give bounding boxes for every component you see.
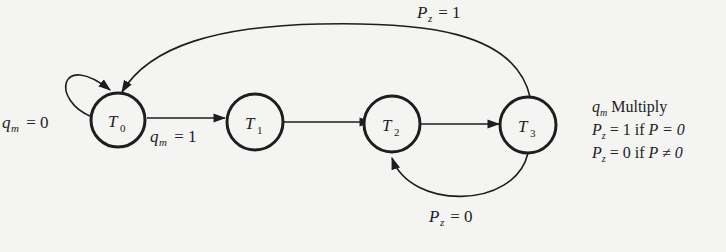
svg-text:= 0: = 0 bbox=[22, 113, 49, 132]
node-label: T bbox=[108, 112, 119, 131]
state-node-T2: T 2 bbox=[364, 96, 420, 152]
state-node-T1: T 1 bbox=[227, 94, 283, 150]
edge-label-qm-1: q m = 1 bbox=[150, 127, 197, 148]
svg-text:m: m bbox=[11, 122, 19, 134]
svg-text:q: q bbox=[2, 113, 11, 132]
node-label: T bbox=[382, 116, 393, 135]
svg-text:P: P bbox=[416, 3, 427, 22]
edge-T3-T2 bbox=[392, 153, 528, 196]
legend-line-pz0: Pz = 0 if P ≠ 0 bbox=[592, 144, 685, 167]
legend: qm Multiply Pz = 1 if P = 0 Pz = 0 if P … bbox=[592, 98, 685, 168]
svg-text:= 1: = 1 bbox=[170, 127, 197, 146]
svg-text:z: z bbox=[439, 216, 445, 228]
edge-T3-T0 bbox=[122, 24, 530, 97]
node-label: T bbox=[245, 114, 256, 133]
edge-label-pz-1: P z = 1 bbox=[416, 3, 461, 24]
node-subscript: 3 bbox=[530, 127, 536, 139]
state-node-T3: T 3 bbox=[500, 97, 556, 153]
node-label: T bbox=[518, 117, 529, 136]
svg-text:P: P bbox=[428, 207, 439, 226]
node-subscript: 2 bbox=[394, 126, 400, 138]
svg-text:= 0: = 0 bbox=[446, 207, 473, 226]
node-subscript: 1 bbox=[257, 124, 263, 136]
svg-text:z: z bbox=[427, 12, 433, 24]
node-subscript: 0 bbox=[120, 122, 126, 134]
edge-label-qm-0: q m = 0 bbox=[2, 113, 49, 134]
legend-line-multiply: qm Multiply bbox=[592, 98, 685, 121]
svg-text:= 1: = 1 bbox=[434, 3, 461, 22]
edge-label-pz-0: P z = 0 bbox=[428, 207, 473, 228]
state-node-T0: T 0 bbox=[91, 93, 145, 147]
svg-text:m: m bbox=[159, 136, 167, 148]
legend-line-pz1: Pz = 1 if P = 0 bbox=[592, 121, 685, 144]
svg-text:q: q bbox=[150, 127, 159, 146]
